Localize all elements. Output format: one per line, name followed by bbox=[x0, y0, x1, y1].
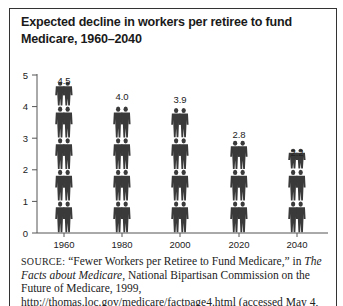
worker-pair-icon bbox=[230, 201, 247, 232]
worker-pair-icon-partial bbox=[171, 108, 188, 137]
x-tick-label: 1980 bbox=[111, 239, 132, 250]
y-ticks: 012345 bbox=[23, 70, 37, 239]
y-tick-label: 1 bbox=[23, 196, 28, 207]
worker-pair-icon bbox=[171, 138, 188, 169]
data-label: 2.2 bbox=[290, 147, 303, 158]
worker-pair-icon bbox=[55, 107, 72, 138]
worker-pair-icon bbox=[171, 170, 188, 201]
data-label: 4.0 bbox=[115, 91, 128, 102]
source-label: SOURCE: bbox=[21, 256, 65, 267]
worker-pair-icon bbox=[113, 138, 130, 169]
worker-pair-icon bbox=[55, 170, 72, 201]
data-label: 4.5 bbox=[57, 75, 70, 86]
y-tick-label: 2 bbox=[23, 164, 28, 175]
worker-pair-icon bbox=[230, 170, 247, 201]
x-tick-label: 2000 bbox=[169, 239, 190, 250]
x-tick-label: 2020 bbox=[228, 239, 249, 250]
data-label: 3.9 bbox=[173, 94, 186, 105]
x-ticks: 19601980200020202040 bbox=[53, 233, 307, 250]
pictograph-columns: 4.54.03.92.82.2 bbox=[55, 75, 305, 232]
y-tick-label: 0 bbox=[23, 228, 28, 239]
pictograph-column-1980 bbox=[113, 107, 130, 233]
pictograph-column-2020 bbox=[230, 141, 247, 232]
y-tick-label: 5 bbox=[23, 70, 28, 81]
x-tick-label: 2040 bbox=[286, 239, 307, 250]
pictograph-column-2000 bbox=[171, 108, 188, 232]
worker-pair-icon bbox=[288, 170, 305, 201]
x-tick-label: 1960 bbox=[53, 239, 74, 250]
source-text-before: “Fewer Workers per Retiree to Fund Medic… bbox=[65, 255, 304, 267]
data-label: 2.8 bbox=[232, 129, 245, 140]
pictograph-column-1960 bbox=[55, 82, 72, 233]
worker-pair-icon bbox=[55, 138, 72, 169]
y-tick-label: 4 bbox=[23, 101, 28, 112]
worker-pair-icon bbox=[171, 201, 188, 232]
worker-pair-icon-partial bbox=[230, 141, 247, 169]
worker-pair-icon bbox=[113, 170, 130, 201]
pictograph-column-2040 bbox=[288, 149, 305, 232]
worker-pair-icon bbox=[113, 107, 130, 138]
worker-pair-icon bbox=[288, 201, 305, 232]
worker-pair-icon bbox=[113, 201, 130, 232]
source-note: SOURCE: “Fewer Workers per Retiree to Fu… bbox=[21, 255, 333, 306]
worker-pair-icon bbox=[55, 201, 72, 232]
y-tick-label: 3 bbox=[23, 133, 28, 144]
